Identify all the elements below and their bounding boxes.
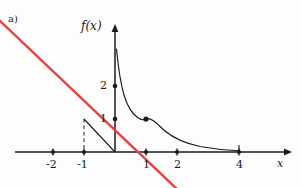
curve-right-branch: [117, 49, 240, 151]
x-tick-label-2: 2: [174, 159, 181, 170]
y-axis-label: f(x): [81, 20, 102, 32]
x-axis-arrowhead: [284, 149, 292, 156]
figure-canvas: a) f(x) x -2 -1 1 2 4 1 2: [0, 0, 302, 188]
y-tick-label-2: 2: [100, 80, 107, 91]
x-tick-label-neg2: -2: [46, 159, 57, 170]
panel-label: a): [8, 14, 18, 24]
x-tick-label-4: 4: [236, 159, 243, 170]
x-tick-label-neg1: -1: [77, 159, 88, 170]
x-tick-label-1: 1: [143, 159, 150, 170]
y-tick-label-1: 1: [100, 113, 107, 124]
curve-point-1-1: [143, 116, 148, 121]
y-axis-arrowhead: [112, 24, 119, 32]
x-axis-label: x: [277, 158, 283, 169]
red-reference-line: [0, 19, 178, 188]
